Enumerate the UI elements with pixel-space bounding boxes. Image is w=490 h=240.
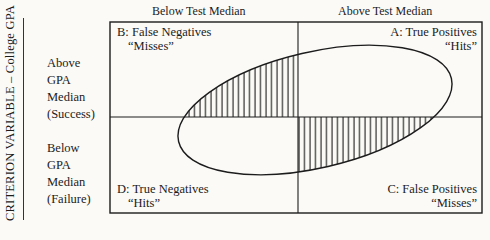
- quadrant-d-tag: “Hits”: [128, 196, 160, 211]
- quadrant-a-tag: “Hits”: [445, 39, 477, 54]
- quadrant-c-title: C: False Positives: [387, 182, 477, 197]
- quadrant-a-title: A: True Positives: [390, 25, 477, 40]
- quadrant-c-tag: “Misses”: [431, 196, 477, 211]
- quadrant-b-title: B: False Negatives: [117, 25, 211, 40]
- quadrant-b-tag: “Misses”: [128, 39, 174, 54]
- quadrant-d-title: D: True Negatives: [117, 182, 209, 197]
